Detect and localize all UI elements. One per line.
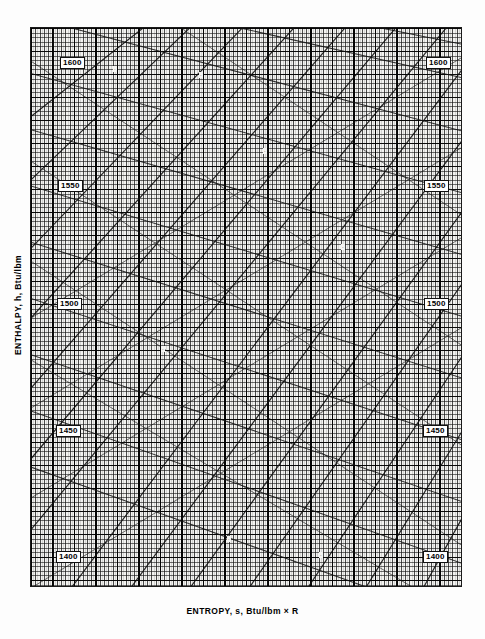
enthalpy-label-1600-left: 1600 [60, 57, 85, 69]
enthalpy-label-1500-left: 1500 [57, 298, 82, 310]
enthalpy-label-1550-left: 1550 [58, 180, 83, 192]
scanned-page: · · · · · · · 1600 1550 1500 1450 1400 1… [0, 0, 485, 639]
inline-annotation: · [227, 536, 231, 542]
inline-annotation: · [161, 346, 165, 352]
enthalpy-label-1500-right: 1500 [424, 298, 449, 310]
isoline-family [31, 28, 461, 586]
enthalpy-label-1400-left: 1400 [56, 551, 81, 563]
mollier-chart-plot-area: · · · · · · · [30, 27, 462, 587]
enthalpy-label-1400-right: 1400 [423, 551, 448, 563]
x-axis-title: ENTROPY, s, Btu/lbm × R [0, 606, 485, 616]
inline-annotation: · [199, 72, 203, 78]
enthalpy-label-1600-right: 1600 [426, 57, 451, 69]
enthalpy-label-1450-right: 1450 [423, 425, 448, 437]
y-axis-title: ENTHALPY, h, Btu/lbm [13, 225, 23, 385]
major-gridlines [31, 28, 461, 586]
minor-gridlines [31, 28, 461, 586]
inline-annotation: · [319, 552, 323, 558]
inline-annotation: · [263, 148, 267, 154]
grid-scan-texture [31, 28, 461, 586]
inline-annotation: · [341, 244, 345, 250]
enthalpy-label-1550-right: 1550 [424, 180, 449, 192]
enthalpy-label-1450-left: 1450 [56, 425, 81, 437]
inline-annotation: · [113, 66, 117, 72]
